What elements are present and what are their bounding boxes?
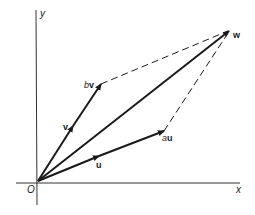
y-axis-label: y [39, 8, 46, 19]
vector-u-segment [38, 156, 99, 181]
vector-v-label: v [63, 122, 68, 132]
vector-diagram: y x O v u bv au w [0, 0, 255, 215]
vector-bv-label: bv [84, 80, 94, 90]
origin-label: O [27, 184, 35, 195]
dashed-au-to-w [164, 33, 228, 131]
x-axis-label: x [235, 184, 242, 195]
y-axis [36, 10, 37, 205]
vector-u-label: u [96, 160, 102, 170]
vec-v: v [89, 80, 94, 90]
vector-bv [73, 84, 101, 126]
vector-w-label: w [232, 30, 241, 40]
dashed-bv-to-w [101, 31, 228, 84]
vec-u: u [167, 133, 173, 143]
vector-au-label: au [162, 133, 173, 143]
vector-au [99, 131, 164, 156]
vector-w [38, 31, 229, 181]
